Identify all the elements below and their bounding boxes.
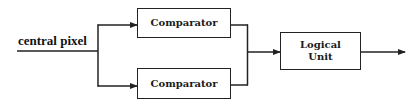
comparator-bottom-label: Comparator: [151, 78, 218, 90]
logical-unit-label-line2: Unit: [308, 51, 332, 63]
comparator-top-label: Comparator: [151, 17, 218, 29]
comparator-top-box: Comparator: [137, 8, 231, 38]
input-label: central pixel: [18, 33, 87, 49]
logical-unit-label-line1: Logical: [300, 39, 341, 51]
comparator-bottom-box: Comparator: [137, 68, 231, 99]
block-diagram: central pixel Comparator Comparator Logi…: [0, 0, 420, 108]
logical-unit-box: Logical Unit: [280, 32, 361, 70]
